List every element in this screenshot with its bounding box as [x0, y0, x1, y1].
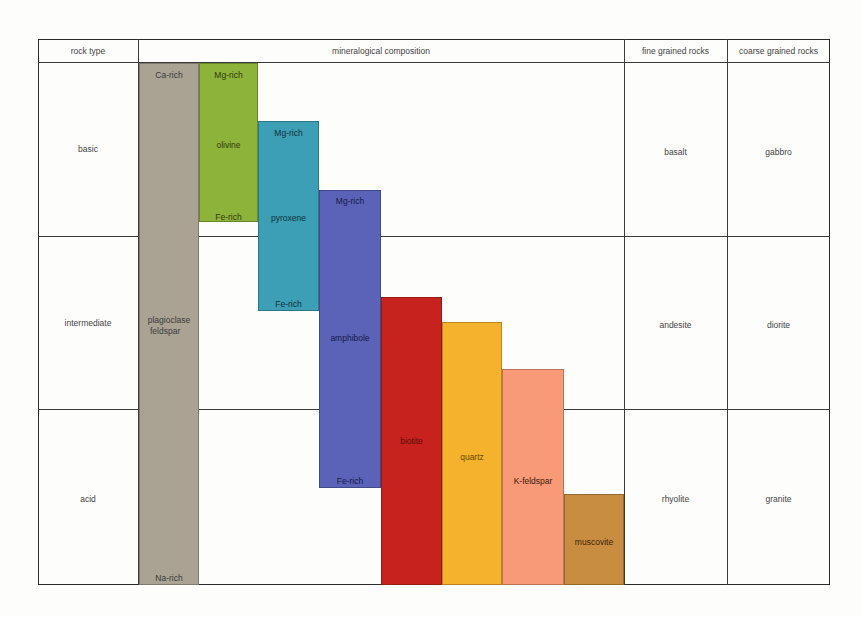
rock-type-acid: acid: [38, 409, 138, 585]
amphibole-top-label: Mg-rich: [320, 196, 380, 207]
pyroxene-top-label: Mg-rich: [259, 128, 318, 139]
plagioclase-name-line1: plagioclase: [140, 315, 198, 326]
amphibole-name: amphibole: [320, 333, 380, 344]
bar-k-feldspar: K-feldspar: [502, 369, 564, 585]
header-rock-type: rock type: [38, 39, 138, 62]
rock-type-basic: basic: [38, 62, 138, 236]
bar-quartz: quartz: [442, 322, 502, 585]
coarse-granite: granite: [727, 409, 830, 589]
bar-pyroxene: Mg-rich pyroxene Fe-rich: [258, 121, 319, 311]
bar-biotite: biotite: [381, 297, 442, 585]
biotite-name: biotite: [382, 436, 441, 447]
header-fine-grained: fine grained rocks: [624, 39, 727, 62]
bar-plagioclase-feldspar: Ca-rich plagioclase feldspar Na-rich: [139, 63, 199, 585]
plagioclase-name-line2: feldspar: [140, 326, 198, 337]
olivine-top-label: Mg-rich: [200, 70, 257, 81]
kfeldspar-name: K-feldspar: [503, 476, 563, 487]
coarse-diorite: diorite: [727, 236, 830, 414]
muscovite-name: muscovite: [565, 537, 623, 548]
plagioclase-top-label: Ca-rich: [140, 70, 198, 81]
plagioclase-bottom-label: Na-rich: [140, 573, 198, 584]
fine-andesite: andesite: [624, 236, 727, 414]
bar-olivine: Mg-rich olivine Fe-rich: [199, 63, 258, 222]
pyroxene-name: pyroxene: [259, 213, 318, 224]
olivine-bottom-label: Fe-rich: [200, 212, 257, 223]
pyroxene-bottom-label: Fe-rich: [259, 299, 318, 310]
fine-rhyolite: rhyolite: [624, 409, 727, 589]
bar-amphibole: Mg-rich amphibole Fe-rich: [319, 190, 381, 488]
fine-basalt: basalt: [624, 62, 727, 242]
olivine-name: olivine: [200, 140, 257, 151]
coarse-gabbro: gabbro: [727, 62, 830, 242]
quartz-name: quartz: [443, 452, 501, 463]
header-mineralogical-composition: mineralogical composition: [138, 39, 624, 62]
header-coarse-grained: coarse grained rocks: [727, 39, 830, 62]
bar-muscovite: muscovite: [564, 494, 624, 585]
amphibole-bottom-label: Fe-rich: [320, 476, 380, 487]
rock-type-intermediate: intermediate: [38, 236, 138, 409]
